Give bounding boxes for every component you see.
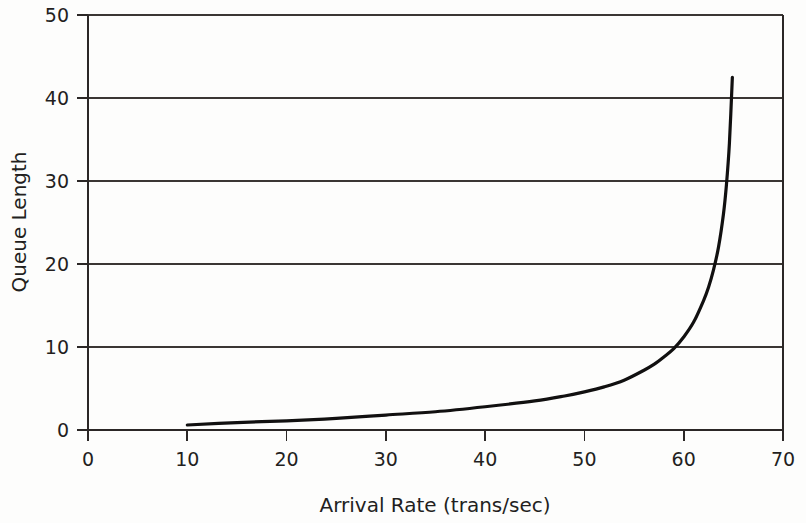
x-tick-label: 50 (572, 448, 596, 470)
y-axis-title: Queue Length (7, 151, 31, 292)
x-tick-label: 40 (473, 448, 497, 470)
x-tick-label: 10 (175, 448, 199, 470)
y-tick-label: 20 (45, 253, 69, 275)
chart-background (0, 0, 806, 523)
x-axis-title: Arrival Rate (trans/sec) (319, 493, 550, 517)
y-tick-label: 10 (45, 336, 69, 358)
x-tick-label: 60 (672, 448, 696, 470)
x-tick-label: 70 (771, 448, 795, 470)
y-tick-label: 0 (57, 419, 69, 441)
y-tick-label: 50 (45, 4, 69, 26)
x-tick-label: 0 (82, 448, 94, 470)
chart-page: 010203040506070 01020304050 Arrival Rate… (0, 0, 806, 523)
queue-length-chart: 010203040506070 01020304050 Arrival Rate… (0, 0, 806, 523)
y-tick-label: 30 (45, 170, 69, 192)
x-tick-label: 20 (274, 448, 298, 470)
y-tick-label: 40 (45, 87, 69, 109)
x-tick-label: 30 (374, 448, 398, 470)
